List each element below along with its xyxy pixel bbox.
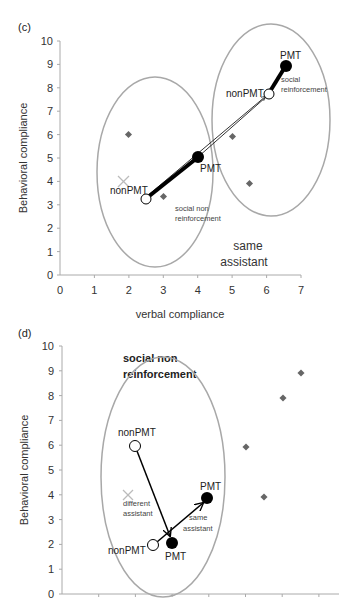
label-nonpmt-d2: nonPMT (108, 545, 146, 556)
y-axis-label-d: Behavioral compliance (18, 415, 30, 526)
chart-c: (c) 10 9 8 7 6 5 4 3 2 1 (17, 21, 330, 320)
arrow-pmt-to-nonpmt-c (198, 97, 266, 157)
figure: (c) 10 9 8 7 6 5 4 3 2 1 (0, 0, 339, 602)
arrow-different-assistant-d (137, 451, 170, 536)
svg-text:0: 0 (48, 588, 54, 600)
label-social-non-c: social non (175, 204, 209, 213)
svg-text:1: 1 (91, 284, 97, 296)
svg-text:0: 0 (47, 269, 53, 281)
label-different-d: different (123, 499, 151, 508)
chart-d: (d) 10 9 8 7 6 5 4 3 2 1 0 (18, 327, 339, 600)
label-nonpmt-c2: nonPMT (226, 88, 264, 99)
svg-text:10: 10 (42, 340, 54, 352)
svg-text:9: 9 (48, 365, 54, 377)
svg-text:2: 2 (126, 284, 132, 296)
svg-text:3: 3 (48, 514, 54, 526)
svg-text:7: 7 (48, 414, 54, 426)
label-reinforcement-c2: reinforcement (281, 85, 328, 94)
arrow-same-assistant-d (157, 503, 203, 542)
svg-text:9: 9 (47, 58, 53, 70)
panel-label-c: (c) (18, 21, 31, 33)
diamond-markers-d (242, 369, 304, 500)
y-tick-labels-c: 10 9 8 7 6 5 4 3 2 1 0 (41, 35, 53, 281)
line-social-non-reinforcement-c (148, 158, 197, 197)
svg-text:5: 5 (229, 284, 235, 296)
label-pmt-c2: PMT (280, 50, 301, 61)
svg-text:8: 8 (48, 390, 54, 402)
svg-text:8: 8 (47, 82, 53, 94)
label-assistant-c: assistant (220, 255, 268, 269)
label-same-assistant-d: assistant (183, 524, 214, 533)
label-pmt-d1: PMT (165, 551, 186, 562)
svg-text:0: 0 (57, 284, 63, 296)
svg-text:6: 6 (47, 129, 53, 141)
x-axis-label-c: verbal compliance (136, 308, 225, 320)
svg-text:2: 2 (47, 222, 53, 234)
svg-text:10: 10 (41, 35, 53, 47)
pmt-point-d1 (166, 537, 178, 549)
svg-text:4: 4 (47, 175, 53, 187)
svg-text:2: 2 (48, 538, 54, 550)
label-nonpmt-c1: nonPMT (110, 185, 148, 196)
svg-text:5: 5 (47, 152, 53, 164)
x-tick-labels-c: 0 1 2 3 4 5 6 7 (57, 284, 304, 296)
nonpmt-point-c2 (264, 89, 274, 99)
svg-text:7: 7 (47, 105, 53, 117)
svg-text:3: 3 (47, 199, 53, 211)
svg-text:1: 1 (48, 563, 54, 575)
label-reinforcement-c1: reinforcement (175, 214, 222, 223)
svg-text:3: 3 (160, 284, 166, 296)
svg-text:4: 4 (195, 284, 201, 296)
svg-text:6: 6 (264, 284, 270, 296)
ellipse-d (101, 357, 225, 597)
label-diff-assistant-d: assistant (123, 509, 154, 518)
pmt-point-d2 (201, 492, 213, 504)
label-same-d: same (189, 513, 207, 522)
svg-text:7: 7 (298, 284, 304, 296)
label-pmt-c1: PMT (200, 163, 221, 174)
label-social-c: social (281, 75, 301, 84)
label-pmt-d2: PMT (200, 481, 221, 492)
y-tick-labels-d: 10 9 8 7 6 5 4 3 2 1 0 (42, 340, 54, 600)
svg-text:6: 6 (48, 439, 54, 451)
pmt-point-c2 (280, 60, 292, 72)
y-axis-label-c: Behavioral compliance (17, 103, 29, 214)
ellipse-right-c (212, 24, 330, 216)
svg-text:5: 5 (48, 464, 54, 476)
label-same-c: same (233, 239, 263, 253)
pmt-point-c1 (192, 151, 204, 163)
label-nonpmt-d1: nonPMT (118, 427, 156, 438)
svg-text:4: 4 (48, 489, 54, 501)
nonpmt-point-d2 (148, 540, 159, 551)
ellipse-left-c (97, 77, 213, 267)
nonpmt-point-d1 (130, 441, 141, 452)
panel-label-d: (d) (18, 327, 31, 339)
svg-text:1: 1 (47, 246, 53, 258)
